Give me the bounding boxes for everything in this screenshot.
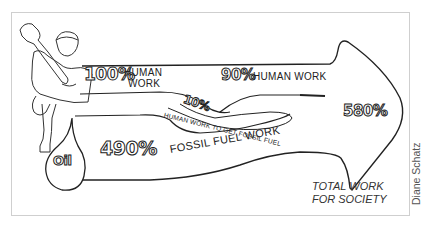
illustrator-credit: Diane Schatz: [410, 143, 422, 205]
human-work-90-label: HUMAN WORK: [253, 72, 327, 82]
total-work-percent: 580%: [343, 104, 387, 119]
human-work-100-label-line2: WORK: [128, 79, 160, 89]
human-work-90-percent: 90%: [221, 68, 255, 83]
oil-label: Oil: [53, 154, 71, 167]
human-work-90-band-edge: [220, 95, 300, 112]
worker-with-wrench-icon: [20, 24, 92, 152]
total-work-label-line2: FOR SOCIETY: [312, 193, 387, 206]
total-work-label-line1: TOTAL WORK: [312, 180, 384, 193]
fossil-fuel-percent: 490%: [100, 139, 157, 158]
human-work-100-label-line1: HUMAN: [124, 68, 162, 78]
human-work-90-tail: [300, 95, 325, 96]
